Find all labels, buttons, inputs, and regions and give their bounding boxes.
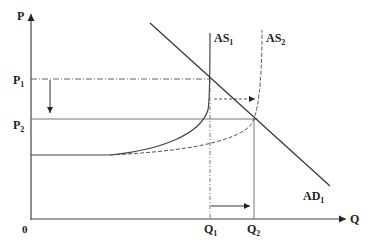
axes: [31, 14, 346, 220]
as1-label: AS1: [214, 31, 233, 47]
as1-curve: [31, 33, 210, 155]
ad1-label: AD1: [303, 189, 324, 205]
p1-label: P1: [13, 73, 24, 89]
q1-label: Q1: [204, 222, 217, 238]
origin-label: 0: [22, 223, 28, 235]
ad-as-diagram: P Q 0 P1 P2 AS1 AS2 AD1 Q1 Q2: [0, 0, 368, 244]
as2-curve: [110, 30, 262, 155]
p2-label: P2: [13, 118, 24, 134]
y-axis-label: P: [17, 9, 24, 23]
as2-label: AS2: [266, 31, 285, 47]
ad1-curve: [150, 23, 330, 186]
q2-label: Q2: [247, 222, 260, 238]
x-axis-label: Q: [350, 212, 359, 226]
